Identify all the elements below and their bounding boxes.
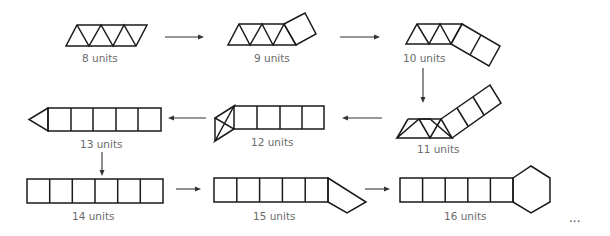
- figure-label: 11 units: [417, 143, 460, 155]
- hexagon: [513, 166, 550, 213]
- figure-label: 13 units: [80, 138, 123, 150]
- figure-9-units: 9 units: [228, 13, 316, 64]
- figure-label: 14 units: [72, 210, 115, 222]
- figure-10-units: 10 units: [403, 24, 500, 66]
- triangle-pair: [215, 106, 234, 141]
- figure-15-units: 15 units: [214, 178, 366, 222]
- figure-11-units: 11 units: [397, 85, 501, 155]
- square-strip: [48, 108, 161, 131]
- triangle-dividers: [419, 119, 441, 138]
- figure-label: 12 units: [251, 136, 294, 148]
- figure-label: 8 units: [82, 52, 118, 64]
- square-strip: [214, 178, 328, 202]
- continuation-ellipsis: ...: [569, 211, 580, 225]
- figure-label: 10 units: [403, 52, 446, 64]
- pentagon: [328, 178, 366, 213]
- figure-16-units: 16 units: [400, 166, 550, 222]
- triangle: [29, 108, 48, 131]
- figure-label: 9 units: [254, 52, 290, 64]
- square-strip: [234, 106, 324, 129]
- figure-13-units: 13 units: [29, 108, 161, 150]
- figure-14-units: 14 units: [27, 179, 163, 222]
- arrow-right: [340, 35, 380, 40]
- figure-12-units: 12 units: [215, 106, 324, 148]
- figure-label: 16 units: [444, 210, 487, 222]
- square: [284, 13, 316, 45]
- figure-label: 15 units: [253, 210, 296, 222]
- square-strip: [441, 85, 501, 138]
- arrow-down: [421, 68, 426, 103]
- arrow-left: [342, 116, 382, 121]
- triangle-dividers: [77, 25, 136, 46]
- arrow-right: [165, 35, 204, 40]
- arrow-left: [168, 116, 206, 121]
- arrow-right: [365, 187, 390, 192]
- arrow-down: [100, 152, 105, 176]
- triangle-dividers: [239, 24, 284, 45]
- triangle-dividers: [417, 24, 451, 44]
- figure-8-units: 8 units: [66, 25, 147, 64]
- pattern-diagram: 8 units 9 units 10 units 11: [0, 0, 610, 236]
- square-strip: [400, 178, 513, 202]
- square-divider: [470, 35, 481, 55]
- arrow-right: [176, 187, 201, 192]
